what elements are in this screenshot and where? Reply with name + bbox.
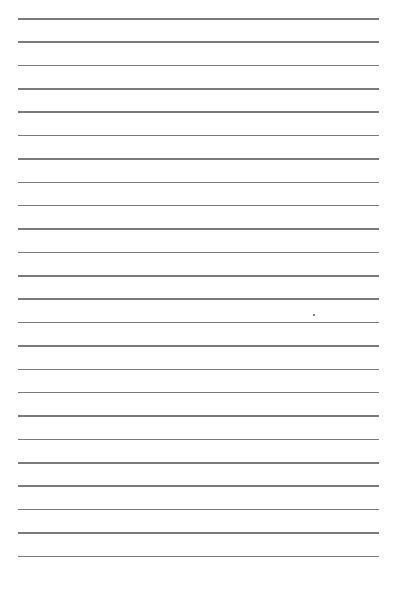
ruled-line: [18, 392, 379, 394]
ruled-line: [18, 275, 379, 277]
ruled-line: [18, 41, 379, 43]
ink-speck: [313, 314, 315, 316]
ruled-line: [18, 158, 379, 160]
ruled-line: [18, 415, 379, 417]
ruled-line: [18, 228, 379, 230]
ruled-line: [18, 345, 379, 347]
ruled-line: [18, 298, 379, 300]
ruled-line: [18, 65, 379, 67]
ruled-line: [18, 322, 379, 324]
ruled-line: [18, 439, 379, 441]
ruled-line: [18, 111, 379, 113]
lined-paper-page: [0, 0, 401, 599]
ruled-line: [18, 369, 379, 371]
ruled-line: [18, 18, 379, 20]
ruled-line: [18, 252, 379, 254]
ruled-line: [18, 205, 379, 207]
ruled-line: [18, 182, 379, 184]
ruled-line: [18, 485, 379, 487]
ruled-line: [18, 135, 379, 137]
ruled-line: [18, 509, 379, 511]
ruled-line: [18, 88, 379, 90]
ruled-line: [18, 462, 379, 464]
ruled-line: [18, 556, 379, 558]
ruled-line: [18, 532, 379, 534]
